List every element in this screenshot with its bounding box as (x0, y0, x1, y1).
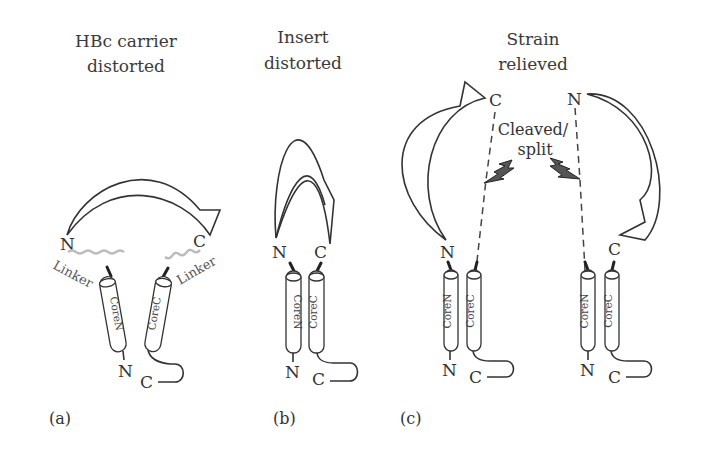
top-n-label: N (567, 89, 582, 109)
insert-arrow-b (275, 140, 334, 244)
core-c-cylinder-a: CoreC (142, 275, 173, 353)
linker-left-label-a: Linker (51, 257, 97, 291)
core-c-cylinder-left-c: CoreC (464, 270, 481, 351)
core-c-cylinder-right-c: CoreC (602, 270, 619, 351)
panel-b-title-line2: distorted (264, 53, 342, 73)
core-n-cylinder-right-c: CoreN (578, 270, 595, 351)
panel-c-title-line1: Strain (506, 29, 559, 49)
stub-left-c-c (475, 262, 477, 270)
core-n-label-b: CoreN (292, 295, 304, 330)
lightning-bolt-right-icon (550, 158, 580, 179)
insert-n-label-b: N (272, 242, 287, 262)
insert-c-label-a: C (193, 231, 206, 251)
insert-arrow-a (67, 180, 220, 235)
left-bottom-n-label: N (442, 360, 457, 380)
stub-c-a (163, 268, 168, 277)
right-bottom-n-label: N (580, 360, 595, 380)
cleaved-label-line2: split (517, 140, 553, 159)
right-bottom-c-label: C (608, 367, 621, 387)
diagram-canvas: HBc carrier distorted N C Linker Linker … (0, 0, 703, 457)
bottom-n-label-a: N (118, 361, 133, 381)
panel-b-label: (b) (273, 409, 296, 428)
panel-a-title-line2: distorted (87, 56, 165, 76)
bottom-n-label-b: N (285, 362, 300, 382)
insert-c-label-b: C (314, 242, 327, 262)
panel-b-title-line1: Insert (277, 27, 329, 47)
dashed-link-right (575, 108, 585, 270)
stub-c-b (317, 263, 321, 271)
core-n-cylinder-b: CoreN (286, 271, 304, 353)
panel-c: Strain relieved C N Cleaved/ split N Cor… (400, 29, 660, 428)
stub-left-n-c (448, 262, 451, 270)
core-n-label-left-c: CoreN (441, 294, 453, 329)
panel-c-title-line2: relieved (498, 54, 568, 74)
insert-arrow-left-c (402, 82, 485, 240)
right-c-label-c: C (608, 239, 621, 259)
core-c-label-b: CoreC (307, 295, 319, 329)
core-c-cylinder-b: CoreC (307, 271, 325, 353)
panel-c-label: (c) (400, 409, 421, 428)
linker-right-a (165, 250, 200, 258)
panel-a-label: (a) (49, 409, 71, 428)
stub-n-a (107, 267, 111, 276)
left-n-label-c: N (440, 242, 455, 262)
tail-n-a (123, 351, 124, 360)
core-n-cylinder-left-c: CoreN (441, 270, 458, 351)
top-c-label: C (489, 90, 502, 110)
stub-n-b (290, 263, 294, 271)
panel-b: Insert distorted N C CoreN CoreC N C (b) (264, 27, 358, 428)
bottom-c-label-a: C (140, 372, 153, 392)
cleaved-label-line1: Cleaved/ (498, 120, 569, 139)
panel-a-title-line1: HBc carrier (75, 31, 178, 51)
linker-right-label-a: Linker (174, 253, 219, 288)
bottom-c-label-b: C (312, 369, 325, 389)
core-n-label-right-c: CoreN (578, 294, 590, 329)
linker-left-a (68, 251, 124, 254)
tail-c-a (148, 350, 183, 382)
insert-arrow-right-c (587, 94, 660, 240)
core-c-label-left-c: CoreC (464, 294, 476, 328)
dashed-link-left (476, 112, 495, 270)
stub-right-c-c (612, 262, 614, 270)
panel-a: HBc carrier distorted N C Linker Linker … (49, 31, 220, 428)
core-n-cylinder-a: CoreN (98, 275, 129, 353)
left-bottom-c-label: C (469, 367, 482, 387)
core-c-label-right-c: CoreC (602, 294, 614, 328)
